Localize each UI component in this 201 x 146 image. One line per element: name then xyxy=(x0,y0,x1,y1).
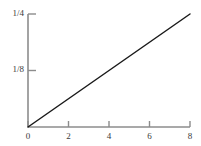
data-series-line xyxy=(28,14,190,127)
y-tick-label-1-4: 1/4 xyxy=(4,9,24,18)
y-tick-label-1-8: 1/8 xyxy=(4,65,24,74)
chart-figure: 1/4 1/8 0 2 4 6 8 xyxy=(0,0,201,146)
x-tick-label-0: 0 xyxy=(20,132,36,141)
x-tick-label-8: 8 xyxy=(182,132,198,141)
x-tick-label-4: 4 xyxy=(101,132,117,141)
plot-area xyxy=(0,0,201,146)
x-tick-label-6: 6 xyxy=(142,132,158,141)
x-tick-label-2: 2 xyxy=(61,132,77,141)
